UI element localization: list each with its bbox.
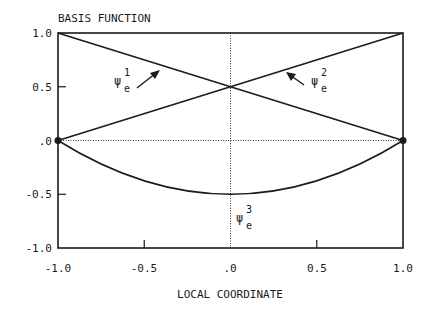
- svg-text:-1.0: -1.0: [45, 262, 72, 275]
- arrowhead-icon: [286, 72, 296, 81]
- svg-text:.0: .0: [223, 262, 236, 275]
- svg-text:e: e: [124, 83, 130, 94]
- chart-title: BASIS FUNCTION: [58, 12, 151, 25]
- svg-text:e: e: [246, 220, 252, 231]
- svg-text:3: 3: [246, 204, 252, 215]
- annotation-psi3: ψ 3 e: [236, 204, 252, 231]
- node-right: [400, 137, 407, 144]
- node-left: [55, 137, 62, 144]
- svg-text:-0.5: -0.5: [131, 262, 158, 275]
- svg-text:1: 1: [124, 67, 130, 78]
- svg-text:-0.5: -0.5: [26, 188, 53, 201]
- svg-text:0.5: 0.5: [307, 262, 327, 275]
- tick-marks: [58, 87, 317, 248]
- svg-text:ψ: ψ: [311, 74, 318, 88]
- y-tick-labels: 1.0 0.5 .0 -0.5 -1.0: [26, 27, 53, 255]
- x-tick-labels: -1.0 -0.5 .0 0.5 1.0: [45, 262, 413, 275]
- svg-text:-1.0: -1.0: [26, 242, 53, 255]
- svg-text:e: e: [321, 83, 327, 94]
- svg-text:0.5: 0.5: [32, 81, 52, 94]
- svg-text:1.0: 1.0: [393, 262, 413, 275]
- x-axis-label: LOCAL COORDINATE: [177, 288, 283, 301]
- svg-text:1.0: 1.0: [32, 27, 52, 40]
- svg-text:.0: .0: [39, 135, 52, 148]
- annotation-psi2: ψ 2 e: [286, 67, 327, 94]
- arrowhead-icon: [150, 70, 160, 79]
- annotation-psi1: ψ 1 e: [114, 67, 160, 94]
- svg-text:ψ: ψ: [236, 211, 243, 225]
- svg-text:ψ: ψ: [114, 74, 121, 88]
- svg-text:2: 2: [321, 67, 327, 78]
- basis-function-chart: BASIS FUNCTION 1.0 0.5 .0 -0.5 -1.0 -1.0…: [0, 0, 429, 309]
